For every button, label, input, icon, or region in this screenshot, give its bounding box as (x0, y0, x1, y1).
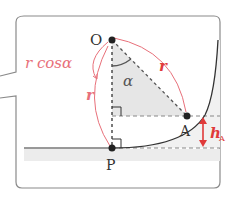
pendulum-diagram: O A P r cosα r r α h A (0, 0, 250, 199)
label-r-cos-alpha: r cosα (25, 54, 72, 72)
label-alpha: α (123, 72, 133, 90)
label-r-left: r (86, 86, 95, 104)
point-O (109, 37, 116, 44)
label-P: P (106, 157, 115, 173)
label-A: A (179, 123, 191, 139)
label-O: O (90, 31, 102, 49)
point-P (109, 145, 116, 152)
ground-band (24, 149, 220, 161)
point-A (184, 113, 191, 120)
label-r-right: r (159, 57, 168, 75)
label-h-subscript: A (218, 134, 225, 143)
